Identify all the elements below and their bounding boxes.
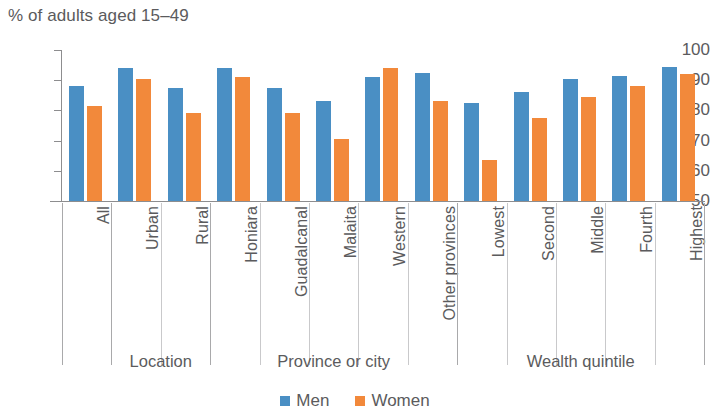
legend-label: Men	[296, 392, 329, 409]
bar-men	[365, 77, 380, 201]
group-separator-minor	[507, 203, 508, 365]
group-separator-major	[457, 203, 458, 365]
group-separator-minor	[358, 203, 359, 365]
group-separator-minor	[161, 203, 162, 365]
bar-women	[383, 68, 398, 201]
bar-group	[507, 50, 556, 201]
category-label: Second	[540, 206, 558, 261]
group-separator-minor	[408, 203, 409, 365]
bar-men	[514, 92, 529, 201]
bar-chart: % of adults aged 15–49 1009080706050 All…	[0, 0, 710, 414]
bar-group	[408, 50, 457, 201]
bar-group	[605, 50, 654, 201]
chart-axis-title: % of adults aged 15–49	[8, 6, 189, 26]
bar-men	[415, 73, 430, 201]
category-label: Honiara	[243, 206, 261, 263]
bar-men	[217, 68, 232, 201]
plot-area	[62, 50, 705, 201]
legend-label: Women	[371, 392, 429, 409]
bar-women	[482, 160, 497, 201]
bar-men	[118, 68, 133, 201]
bar-women	[680, 74, 695, 201]
bar-group	[655, 50, 704, 201]
group-separator-minor	[655, 203, 656, 365]
bar-women	[581, 97, 596, 201]
category-label: Lowest	[490, 206, 508, 257]
category-label: Guadalcanal	[293, 206, 311, 297]
bar-women	[235, 77, 250, 201]
group-separator-minor	[605, 203, 606, 365]
legend-swatch-icon	[280, 396, 290, 406]
bar-group	[161, 50, 210, 201]
legend-swatch-icon	[355, 396, 365, 406]
group-separator-major	[704, 203, 705, 365]
bar-group	[556, 50, 605, 201]
section-label: Province or city	[210, 352, 457, 371]
category-label: Fourth	[638, 206, 656, 253]
group-separator-major	[111, 203, 112, 365]
bar-men	[316, 101, 331, 201]
category-label: Urban	[144, 206, 162, 250]
section-label: Location	[111, 352, 210, 371]
bar-women	[186, 113, 201, 201]
bar-women	[630, 86, 645, 201]
group-separator-minor	[309, 203, 310, 365]
bar-group	[309, 50, 358, 201]
bar-group	[260, 50, 309, 201]
bar-group	[210, 50, 259, 201]
bar-women	[433, 101, 448, 201]
bar-men	[69, 86, 84, 201]
bar-women	[334, 139, 349, 201]
section-label: Wealth quintile	[457, 352, 704, 371]
chart-legend: MenWomen	[0, 392, 710, 409]
bar-group	[457, 50, 506, 201]
group-separator-major	[210, 203, 211, 365]
legend-item[interactable]: Women	[355, 392, 429, 409]
group-separator-major	[62, 203, 63, 365]
legend-item[interactable]: Men	[280, 392, 329, 409]
bar-group	[111, 50, 160, 201]
bar-women	[87, 106, 102, 201]
bar-women	[136, 79, 151, 201]
bar-women	[285, 113, 300, 201]
group-separator-minor	[556, 203, 557, 365]
bar-women	[532, 118, 547, 201]
bar-men	[563, 79, 578, 201]
bar-men	[612, 76, 627, 201]
bar-group	[62, 50, 111, 201]
bar-group	[358, 50, 407, 201]
x-axis-line	[50, 201, 705, 202]
bar-men	[662, 67, 677, 201]
group-separator-minor	[260, 203, 261, 365]
bar-men	[168, 88, 183, 201]
bar-men	[464, 103, 479, 201]
category-label: Western	[391, 206, 409, 266]
bar-men	[267, 88, 282, 201]
